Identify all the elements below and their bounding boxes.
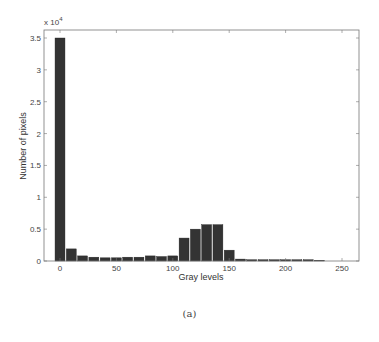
histogram-bar: [123, 257, 133, 261]
histogram-bar: [66, 249, 76, 261]
histogram-bar: [213, 225, 223, 261]
histogram-bar: [190, 229, 200, 261]
figure-caption: (a): [0, 308, 379, 319]
histogram-chart: 050100150200250 00.511.522.533.5 x 104 G…: [0, 0, 379, 300]
x-axis-label: Gray levels: [178, 272, 224, 282]
y-tick-label: 2: [37, 130, 42, 139]
x-tick-label: 200: [279, 264, 293, 273]
histogram-bar: [55, 38, 65, 261]
y-tick-label: 0.5: [30, 225, 42, 234]
histogram-bar: [157, 257, 167, 261]
x-tick-label: 0: [58, 264, 63, 273]
bars-group: [55, 38, 324, 261]
x-tick-label: 250: [335, 264, 349, 273]
y-tick-label: 1: [37, 193, 42, 202]
histogram-bar: [89, 257, 99, 261]
histogram-bar: [78, 256, 88, 261]
histogram-bar: [145, 256, 155, 261]
y-tick-label: 3: [37, 66, 42, 75]
histogram-bar: [134, 257, 144, 261]
y-tick-label: 1.5: [30, 161, 42, 170]
y-tick-label: 2.5: [30, 98, 42, 107]
y-tick-label: 0: [37, 257, 42, 266]
y-axis-label: Number of pixels: [18, 112, 28, 180]
y-tick-label: 3.5: [30, 34, 42, 43]
x-tick-label: 50: [112, 264, 121, 273]
histogram-bar: [100, 258, 110, 261]
x-tick-label: 150: [223, 264, 237, 273]
y-exponent-label: x 104: [44, 16, 63, 27]
histogram-bar: [179, 238, 189, 261]
histogram-bar: [202, 225, 212, 261]
